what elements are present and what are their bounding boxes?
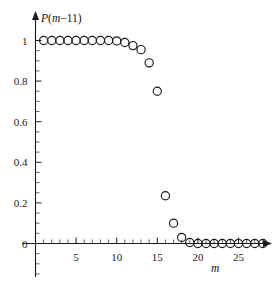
y-tick-label: 0	[22, 238, 28, 250]
chart-figure: 00.20.40.60.81 510152025 P(m−11) m	[0, 0, 275, 292]
data-point-markers	[40, 36, 267, 247]
chart-plot-area: 00.20.40.60.81 510152025 P(m−11) m	[0, 0, 275, 292]
x-tick-label: 10	[111, 251, 123, 263]
x-axis-title: m	[211, 262, 219, 274]
data-point	[88, 36, 96, 44]
data-point	[137, 46, 145, 54]
y-tick-label: 0.6	[14, 116, 28, 128]
x-tick-label: 20	[192, 251, 204, 263]
data-point	[72, 36, 80, 44]
data-point	[161, 192, 169, 200]
y-tick-label: 0.8	[14, 75, 28, 87]
data-point	[48, 36, 56, 44]
x-tick-label: 25	[233, 251, 245, 263]
x-axis-tick-labels: 510152025	[73, 251, 244, 263]
x-tick-label: 5	[73, 251, 79, 263]
y-axis-ticks	[36, 41, 42, 274]
data-point	[121, 38, 129, 46]
y-tick-label: 0.2	[14, 197, 28, 209]
data-point	[153, 87, 161, 95]
y-tick-label: 1	[22, 35, 28, 47]
y-axis-title: P(m−11)	[40, 12, 82, 25]
data-point	[113, 37, 121, 45]
data-point	[96, 36, 104, 44]
x-tick-label: 15	[152, 251, 164, 263]
data-point	[145, 59, 153, 67]
y-axis-arrow-icon	[32, 11, 39, 20]
y-axis-tick-labels: 00.20.40.60.81	[14, 35, 28, 250]
data-point	[64, 36, 72, 44]
data-point	[56, 36, 64, 44]
y-tick-label: 0.4	[14, 156, 28, 168]
data-point	[80, 36, 88, 44]
data-point	[129, 41, 137, 49]
data-point	[169, 219, 177, 227]
x-axis-ticks	[44, 238, 263, 244]
data-point	[104, 36, 112, 44]
